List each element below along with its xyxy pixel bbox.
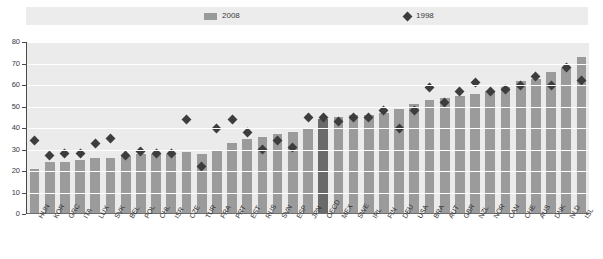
y-axis-tick-mark: [22, 171, 26, 172]
legend-item-1998: 1998: [404, 7, 434, 25]
point-nzl[interactable]: [470, 78, 480, 88]
point-nor[interactable]: [485, 86, 495, 96]
point-kor[interactable]: [45, 151, 55, 161]
y-axis-tick-mark: [22, 150, 26, 151]
y-axis-tick-mark: [22, 85, 26, 86]
gridline: [27, 42, 589, 43]
point-lux[interactable]: [90, 138, 100, 148]
point-irl[interactable]: [364, 112, 374, 122]
point-jpn[interactable]: [303, 112, 313, 122]
point-swe[interactable]: [349, 112, 359, 122]
y-axis-tick-label: 30: [0, 146, 20, 154]
gridline: [27, 193, 589, 194]
gridline: [27, 64, 589, 65]
y-axis-tick-label: 70: [0, 60, 20, 68]
point-cze[interactable]: [182, 114, 192, 124]
y-axis-tick-mark: [22, 42, 26, 43]
x-axis-baseline: [27, 213, 589, 214]
y-axis-tick-label: 20: [0, 167, 20, 175]
gridline: [27, 85, 589, 86]
bar-swatch-icon: [204, 13, 217, 20]
point-aus[interactable]: [531, 71, 541, 81]
point-prt[interactable]: [227, 114, 237, 124]
y-axis-tick-label: 60: [0, 81, 20, 89]
y-axis-tick-label: 50: [0, 103, 20, 111]
diamond-marker-icon: [403, 11, 413, 21]
point-esp[interactable]: [288, 142, 298, 152]
y-axis-tick-mark: [22, 64, 26, 65]
y-axis-tick-label: 80: [0, 38, 20, 46]
y-axis-tick-label: 0: [0, 210, 20, 218]
gridline: [27, 107, 589, 108]
plot-area: [26, 42, 589, 214]
legend-item-2008: 2008: [204, 7, 240, 25]
y-axis-tick-label: 40: [0, 124, 20, 132]
y-axis-tick-mark: [22, 128, 26, 129]
point-bel[interactable]: [121, 151, 131, 161]
point-oecd[interactable]: [318, 112, 328, 122]
point-svn[interactable]: [273, 136, 283, 146]
point-pol[interactable]: [136, 147, 146, 157]
gridline: [27, 171, 589, 172]
y-axis-tick-label: 10: [0, 189, 20, 197]
y-axis-tick-mark: [22, 107, 26, 108]
point-hun[interactable]: [30, 136, 40, 146]
point-mex[interactable]: [333, 117, 343, 127]
chart-legend: 2008 1998: [26, 7, 588, 25]
gridline: [27, 150, 589, 151]
gridline: [27, 128, 589, 129]
legend-label-2008: 2008: [222, 12, 240, 20]
chart-page: 2008 1998 HUNKORGRCITALUXSVKBELPOLCHLISR…: [0, 0, 603, 259]
point-svk[interactable]: [106, 134, 116, 144]
point-bra[interactable]: [425, 82, 435, 92]
x-axis-labels: HUNKORGRCITALUXSVKBELPOLCHLISRCZETURFRAP…: [26, 216, 588, 259]
point-gbr[interactable]: [455, 86, 465, 96]
legend-label-1998: 1998: [416, 12, 434, 20]
y-axis-tick-mark: [22, 214, 26, 215]
y-axis-tick-mark: [22, 193, 26, 194]
